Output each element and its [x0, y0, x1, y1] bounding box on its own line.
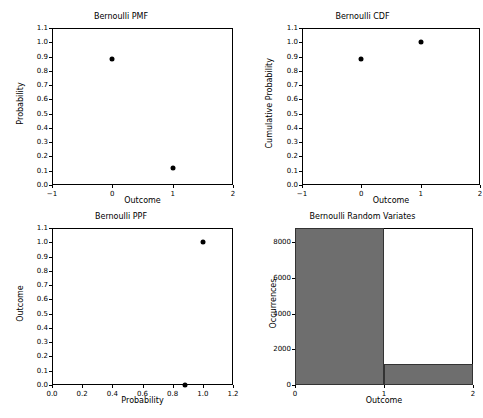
y-tick-label: 1.0 — [20, 238, 48, 246]
x-tick-label: −1 — [47, 190, 57, 198]
y-tick-mark — [49, 171, 52, 172]
x-tick-mark — [173, 385, 174, 388]
x-tick-mark — [233, 185, 234, 188]
x-tick-label: 0 — [359, 190, 363, 198]
x-tick-label: 0.6 — [137, 390, 148, 398]
x-tick-mark — [361, 185, 362, 188]
x-tick-label: 0.2 — [77, 390, 88, 398]
plot-area-pmf — [52, 28, 233, 185]
x-tick-label: 2 — [478, 190, 482, 198]
y-tick-label: 0.7 — [20, 81, 48, 89]
y-tick-label: 0.6 — [20, 95, 48, 103]
x-tick-label: 1 — [382, 390, 386, 398]
y-tick-mark — [49, 371, 52, 372]
data-point — [359, 57, 364, 62]
x-tick-mark — [384, 385, 385, 388]
y-tick-label: 0.2 — [20, 352, 48, 360]
y-tick-label: 0.0 — [270, 181, 298, 189]
plot-area-cdf — [302, 28, 480, 185]
y-tick-label: 0.1 — [20, 167, 48, 175]
bernoulli-distribution-figure: Bernoulli PMF Probability Outcome 0.00.1… — [0, 0, 483, 418]
x-tick-label: 0 — [293, 390, 297, 398]
y-tick-mark — [49, 342, 52, 343]
y-tick-mark — [49, 328, 52, 329]
y-tick-mark — [299, 156, 302, 157]
y-tick-label: 0.3 — [270, 138, 298, 146]
x-tick-label: 0.8 — [167, 390, 178, 398]
y-tick-mark — [49, 114, 52, 115]
y-tick-label: 0.6 — [20, 295, 48, 303]
y-tick-label: 0.5 — [20, 310, 48, 318]
y-tick-label: 0.4 — [270, 124, 298, 132]
y-tick-label: 4000 — [263, 310, 291, 318]
y-tick-mark — [49, 85, 52, 86]
panel-title-random-variates: Bernoulli Random Variates — [242, 212, 483, 221]
data-point — [110, 57, 115, 62]
y-tick-mark — [49, 228, 52, 229]
y-tick-label: 1.0 — [20, 38, 48, 46]
x-tick-mark — [52, 385, 53, 388]
y-tick-label: 0.4 — [20, 124, 48, 132]
y-tick-mark — [49, 71, 52, 72]
y-tick-label: 1.1 — [270, 24, 298, 32]
x-tick-label: 1 — [170, 190, 174, 198]
y-tick-label: 0.7 — [20, 281, 48, 289]
y-tick-label: 0.7 — [270, 81, 298, 89]
y-tick-mark — [49, 314, 52, 315]
y-tick-label: 1.0 — [270, 38, 298, 46]
y-tick-mark — [299, 99, 302, 100]
y-tick-mark — [49, 28, 52, 29]
x-tick-label: 1 — [418, 190, 422, 198]
x-tick-mark — [302, 185, 303, 188]
x-tick-mark — [82, 385, 83, 388]
x-tick-mark — [143, 385, 144, 388]
y-tick-label: 1.1 — [20, 224, 48, 232]
y-tick-mark — [49, 42, 52, 43]
y-tick-label: 0.9 — [20, 253, 48, 261]
y-tick-mark — [49, 99, 52, 100]
y-tick-label: 0.8 — [20, 67, 48, 75]
y-tick-mark — [49, 156, 52, 157]
x-tick-mark — [233, 385, 234, 388]
histogram-bar — [295, 228, 384, 385]
x-tick-label: 1.2 — [227, 390, 238, 398]
y-tick-mark — [49, 142, 52, 143]
y-tick-label: 0.3 — [20, 138, 48, 146]
x-tick-mark — [421, 185, 422, 188]
panel-title-ppf: Bernoulli PPF — [0, 212, 242, 221]
histogram-bar — [384, 364, 473, 385]
y-tick-mark — [299, 85, 302, 86]
y-tick-mark — [299, 171, 302, 172]
y-tick-label: 0.8 — [20, 267, 48, 275]
y-tick-label: 0.2 — [20, 152, 48, 160]
x-tick-mark — [112, 185, 113, 188]
y-tick-label: 0.6 — [270, 95, 298, 103]
x-axis-label-pmf: Outcome — [52, 196, 233, 205]
y-tick-label: 0 — [263, 381, 291, 389]
y-tick-label: 1.1 — [20, 24, 48, 32]
y-tick-mark — [299, 128, 302, 129]
y-tick-mark — [49, 285, 52, 286]
y-tick-label: 0.8 — [270, 67, 298, 75]
panel-title-pmf: Bernoulli PMF — [0, 12, 242, 21]
y-tick-mark — [299, 142, 302, 143]
data-point — [200, 240, 205, 245]
panel-bernoulli-random-variates: Bernoulli Random Variates Occurrences Ou… — [242, 209, 483, 418]
x-tick-label: 0.4 — [107, 390, 118, 398]
x-tick-mark — [295, 385, 296, 388]
y-tick-mark — [49, 257, 52, 258]
y-tick-label: 0.5 — [270, 110, 298, 118]
y-tick-mark — [299, 42, 302, 43]
x-tick-label: 2 — [231, 190, 235, 198]
y-tick-label: 0.9 — [20, 53, 48, 61]
x-tick-mark — [203, 385, 204, 388]
x-tick-label: 0.0 — [46, 390, 57, 398]
y-axis-label-random-variates: Occurrences — [269, 259, 278, 349]
y-tick-mark — [299, 28, 302, 29]
x-tick-label: −1 — [297, 190, 307, 198]
panel-title-cdf: Bernoulli CDF — [242, 12, 483, 21]
y-tick-label: 0.0 — [20, 181, 48, 189]
y-tick-label: 0.5 — [20, 110, 48, 118]
y-tick-label: 0.2 — [270, 152, 298, 160]
y-tick-mark — [49, 242, 52, 243]
